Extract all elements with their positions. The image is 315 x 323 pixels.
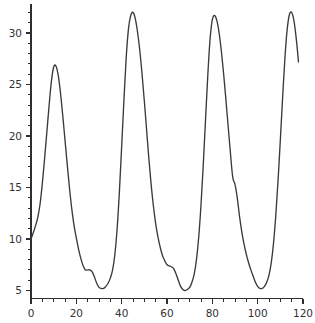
y-tick-label: 30 (9, 27, 22, 39)
y-tick-label: 5 (15, 284, 22, 296)
chart-background (0, 0, 315, 323)
x-tick-label: 120 (293, 307, 313, 319)
x-tick-label: 0 (28, 307, 35, 319)
x-tick-label: 20 (70, 307, 83, 319)
x-tick-label: 100 (248, 307, 268, 319)
chart-container: 51015202530 020406080100120 (0, 0, 315, 323)
x-tick-label: 60 (160, 307, 173, 319)
x-tick-label: 80 (206, 307, 219, 319)
line-chart: 51015202530 020406080100120 (0, 0, 315, 323)
x-tick-label: 40 (115, 307, 128, 319)
y-tick-label: 25 (9, 78, 22, 90)
y-tick-label: 20 (9, 130, 22, 142)
y-tick-label: 15 (9, 181, 22, 193)
y-tick-label: 10 (9, 233, 22, 245)
